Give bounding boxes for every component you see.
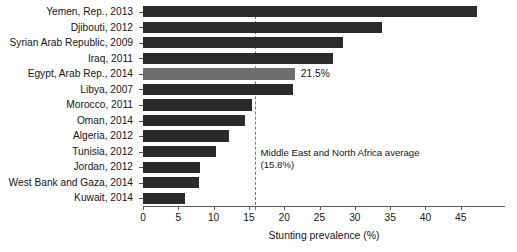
bar bbox=[143, 6, 477, 17]
bar-row bbox=[143, 175, 489, 191]
x-axis-tick-label: 25 bbox=[314, 211, 325, 225]
y-axis-label: Libya, 2007 bbox=[80, 82, 133, 98]
y-axis-tick bbox=[139, 58, 143, 59]
y-axis-label: Oman, 2014 bbox=[77, 113, 133, 129]
bar bbox=[143, 162, 200, 173]
x-axis-title: Stunting prevalence (%) bbox=[143, 230, 505, 241]
bar-row bbox=[143, 190, 489, 206]
bar-row bbox=[143, 97, 489, 113]
bar-row bbox=[143, 4, 489, 20]
bar bbox=[143, 177, 199, 188]
bar-row bbox=[143, 144, 489, 160]
bar bbox=[143, 37, 343, 48]
y-axis-category-labels: Yemen, Rep., 2013Djibouti, 2012Syrian Ar… bbox=[0, 4, 139, 206]
y-axis-tick bbox=[139, 183, 143, 184]
bar bbox=[143, 68, 295, 79]
bar bbox=[143, 130, 229, 141]
y-axis-label: Djibouti, 2012 bbox=[71, 20, 133, 36]
y-axis-label: Iraq, 2011 bbox=[88, 51, 133, 67]
x-axis-tick bbox=[143, 206, 144, 210]
bar-row bbox=[143, 51, 489, 67]
x-axis-tick bbox=[320, 206, 321, 210]
x-axis-tick bbox=[178, 206, 179, 210]
y-axis-tick bbox=[139, 105, 143, 106]
bar bbox=[143, 84, 293, 95]
x-axis-tick bbox=[390, 206, 391, 210]
x-axis-tick-label: 20 bbox=[279, 211, 290, 225]
y-axis-tick bbox=[139, 27, 143, 28]
y-axis-label: Yemen, Rep., 2013 bbox=[46, 4, 133, 20]
x-axis-tick bbox=[284, 206, 285, 210]
x-axis-tick-label: 40 bbox=[420, 211, 431, 225]
x-axis-line bbox=[143, 206, 505, 207]
bar-value-label: 21.5% bbox=[301, 67, 330, 80]
y-axis-tick bbox=[139, 12, 143, 13]
x-axis-tick-label: 45 bbox=[455, 211, 466, 225]
x-axis-tick bbox=[249, 206, 250, 210]
bar bbox=[143, 22, 382, 33]
y-axis-label: West Bank and Gaza, 2014 bbox=[9, 175, 133, 191]
x-axis-tick bbox=[461, 206, 462, 210]
y-axis-label: Egypt, Arab Rep., 2014 bbox=[28, 66, 133, 82]
x-axis-tick-label: 35 bbox=[384, 211, 395, 225]
x-axis-tick bbox=[355, 206, 356, 210]
y-axis-label: Kuwait, 2014 bbox=[74, 190, 133, 206]
bar-row bbox=[143, 128, 489, 144]
y-axis-tick bbox=[139, 43, 143, 44]
y-axis-label: Syrian Arab Republic, 2009 bbox=[10, 35, 133, 51]
y-axis-tick bbox=[139, 121, 143, 122]
y-axis-tick bbox=[139, 136, 143, 137]
x-axis-tick-label: 5 bbox=[175, 211, 181, 225]
x-axis-tick-label: 10 bbox=[208, 211, 219, 225]
y-axis-tick bbox=[139, 152, 143, 153]
bar-row: 21.5% bbox=[143, 66, 489, 82]
y-axis-label: Morocco, 2011 bbox=[66, 97, 133, 113]
x-axis-tick bbox=[214, 206, 215, 210]
bar bbox=[143, 193, 185, 204]
y-axis-tick bbox=[139, 167, 143, 168]
y-axis-tick bbox=[139, 198, 143, 199]
stunting-prevalence-bar-chart: Yemen, Rep., 2013Djibouti, 2012Syrian Ar… bbox=[0, 0, 517, 252]
y-axis-tick bbox=[139, 74, 143, 75]
x-axis-tick bbox=[425, 206, 426, 210]
bar bbox=[143, 53, 333, 64]
bar-row bbox=[143, 35, 489, 51]
plot-area: Middle East and North Africa average (15… bbox=[143, 4, 489, 206]
y-axis-label: Algeria, 2012 bbox=[73, 128, 133, 144]
bar-row bbox=[143, 82, 489, 98]
bar bbox=[143, 99, 252, 110]
bar bbox=[143, 115, 245, 126]
x-axis-tick-label: 0 bbox=[140, 211, 146, 225]
x-axis-tick-label: 15 bbox=[243, 211, 254, 225]
bar bbox=[143, 146, 216, 157]
y-axis-tick bbox=[139, 89, 143, 90]
y-axis-label: Tunisia, 2012 bbox=[72, 144, 133, 160]
bar-row bbox=[143, 113, 489, 129]
x-axis-tick-label: 30 bbox=[349, 211, 360, 225]
bar-row bbox=[143, 20, 489, 36]
bar-row bbox=[143, 159, 489, 175]
y-axis-label: Jordan, 2012 bbox=[74, 159, 133, 175]
